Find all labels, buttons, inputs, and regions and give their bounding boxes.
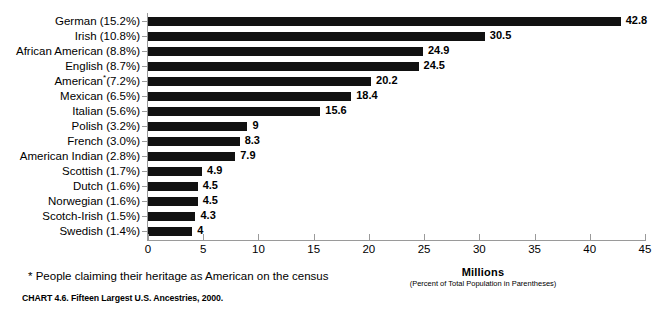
y-axis-tick [142,216,147,217]
y-axis-category-label: German (15.2%) [0,14,140,29]
bar-chart-figure: German (15.2%)Irish (10.8%)African Ameri… [0,0,664,310]
y-axis-category-label: American Indian (2.8%) [0,149,140,164]
bar-row: 24.5 [148,59,645,74]
bar-row: 4.9 [148,164,645,179]
x-axis-tick [645,234,646,240]
y-axis-tick [142,171,147,172]
bar-value-label: 15.6 [325,103,346,118]
bar-row: 4.5 [148,179,645,194]
bar [148,152,235,161]
bar-value-label: 7.9 [240,148,255,163]
x-axis-tick-label: 45 [625,243,664,255]
bar-row: 8.3 [148,134,645,149]
bar-value-label: 20.2 [376,73,397,88]
bar [148,77,371,86]
y-axis-tick [142,231,147,232]
bar-value-label: 24.5 [424,58,445,73]
bar [148,17,621,26]
bar-value-label: 9 [252,118,258,133]
bar [148,167,202,176]
bar-row: 20.2 [148,74,645,89]
y-axis-tick [142,186,147,187]
y-axis-category-labels: German (15.2%)Irish (10.8%)African Ameri… [0,14,140,239]
y-axis-tick [142,126,147,127]
bar-value-label: 42.8 [626,13,647,28]
x-axis-tick [479,234,480,240]
y-axis-tick [142,201,147,202]
x-axis-tick-label: 20 [349,243,389,255]
bar-value-label: 4.3 [200,208,215,223]
bar-row: 15.6 [148,104,645,119]
x-axis-tick [590,234,591,240]
bar-value-label: 24.9 [428,43,449,58]
bar [148,212,195,221]
x-axis-tick [258,234,259,240]
y-axis-tick [142,36,147,37]
bar-row: 18.4 [148,89,645,104]
x-axis-tick-label: 10 [238,243,278,255]
bar-row: 42.8 [148,14,645,29]
y-axis-category-label: Mexican (6.5%) [0,89,140,104]
bar-value-label: 30.5 [490,28,511,43]
bar-row: 9 [148,119,645,134]
y-axis-category-label: Norwegian (1.6%) [0,194,140,209]
x-axis-tick [424,234,425,240]
bar [148,47,423,56]
bar [148,122,247,131]
bar [148,107,320,116]
x-axis-title-block: Millions (Percent of Total Population in… [368,266,598,288]
bar [148,137,240,146]
y-axis-tick [142,156,147,157]
y-axis-category-label: French (3.0%) [0,134,140,149]
plot-area: 42.830.524.924.520.218.415.698.37.94.94.… [148,14,645,239]
y-axis-category-label: Italian (5.6%) [0,104,140,119]
bar [148,197,198,206]
x-axis-title: Millions [368,266,598,278]
x-axis-tick [314,234,315,240]
bar-row: 24.9 [148,44,645,59]
bar [148,62,419,71]
x-axis-tick-label: 15 [294,243,334,255]
x-axis-tick-label: 25 [404,243,444,255]
y-axis-category-label: American*(7.2%) [0,74,140,89]
bar-value-label: 4.5 [203,178,218,193]
chart-caption: CHART 4.6. Fifteen Largest U.S. Ancestri… [22,292,223,303]
y-axis-category-label: Irish (10.8%) [0,29,140,44]
x-axis-tick [203,234,204,240]
bar [148,32,485,41]
x-axis-tick-label: 40 [570,243,610,255]
footnote: * People claiming their heritage as Amer… [28,270,328,282]
bar [148,182,198,191]
y-axis-tick [142,141,147,142]
x-axis-tick-label: 30 [459,243,499,255]
x-axis-tick [369,234,370,240]
x-axis-tick-label: 35 [515,243,555,255]
x-axis-tick [535,234,536,240]
x-axis-tick-label: 5 [183,243,223,255]
y-axis-category-label: English (8.7%) [0,59,140,74]
x-axis-tick-label: 0 [128,243,168,255]
y-axis-tick [142,81,147,82]
bar-value-label: 8.3 [245,133,260,148]
bar [148,92,351,101]
x-axis-tick [148,234,149,240]
y-axis-category-label: Dutch (1.6%) [0,179,140,194]
y-axis-tick [142,21,147,22]
y-axis-category-label: Scottish (1.7%) [0,164,140,179]
bar-row: 7.9 [148,149,645,164]
y-axis-category-label: Polish (3.2%) [0,119,140,134]
y-axis-tick [142,51,147,52]
x-axis-line [147,240,646,241]
y-axis-category-label: Scotch-Irish (1.5%) [0,209,140,224]
y-axis-tick [142,96,147,97]
y-axis-category-label: Swedish (1.4%) [0,224,140,239]
bar-value-label: 4.5 [203,193,218,208]
bar-row: 4.3 [148,209,645,224]
bar-row: 4 [148,224,645,239]
bar-value-label: 18.4 [356,88,377,103]
y-axis-tick [142,111,147,112]
y-axis-tick [142,66,147,67]
bar-value-label: 4.9 [207,163,222,178]
y-axis-category-label: African American (8.8%) [0,44,140,59]
bar [148,227,192,236]
